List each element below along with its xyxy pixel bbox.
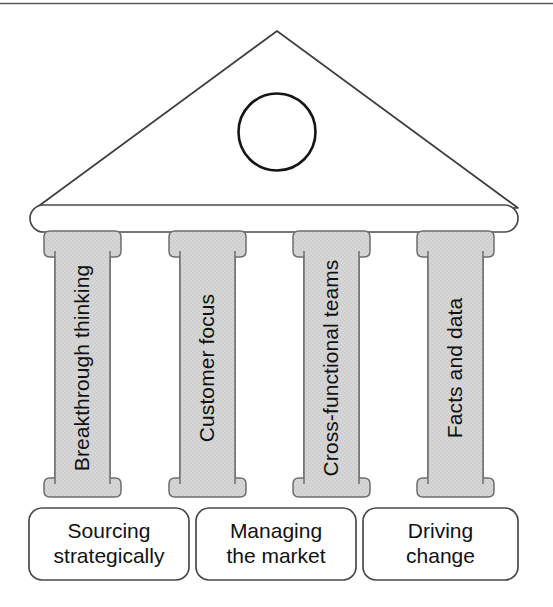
- pillar-4-label: Facts and data: [444, 297, 468, 437]
- base-box-2[interactable]: [196, 508, 356, 580]
- entablature-bar: [30, 205, 518, 232]
- pillar-1-label: Breakthrough thinking: [71, 264, 95, 470]
- pillar-2-label-wrap: Customer focus: [180, 251, 235, 484]
- pillar-4-label-wrap: Facts and data: [428, 251, 483, 484]
- pillar-3-label-wrap: Cross-functional teams: [304, 251, 359, 484]
- pillar-1-label-wrap: Breakthrough thinking: [55, 251, 110, 484]
- pillar-2-label: Customer focus: [196, 293, 220, 441]
- temple-diagram: Breakthrough thinking Customer focus Cro…: [0, 0, 553, 607]
- pillar-3-label: Cross-functional teams: [320, 259, 344, 476]
- circle-emblem: [239, 94, 316, 171]
- base-box-1[interactable]: [29, 508, 189, 580]
- base-box-3[interactable]: [363, 508, 518, 580]
